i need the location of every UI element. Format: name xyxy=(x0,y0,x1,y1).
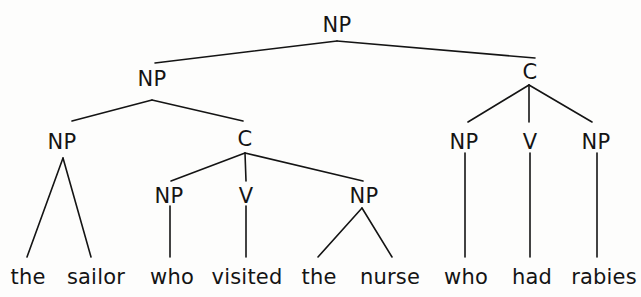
edge-group xyxy=(27,41,597,257)
tree-leaf-w4: visited xyxy=(212,267,283,288)
tree-node-n8-np: NP xyxy=(155,186,184,207)
tree-edge-n3-w2 xyxy=(63,158,91,257)
tree-leaf-w5: the xyxy=(301,267,336,288)
tree-leaf-w8: had xyxy=(512,267,552,288)
tree-edge-n10-w6 xyxy=(362,208,392,257)
tree-leaf-w7: who xyxy=(444,267,488,288)
tree-edge-n2-n7 xyxy=(529,85,592,122)
tree-edge-n0-n1 xyxy=(155,41,337,63)
tree-leaf-w3: who xyxy=(150,267,194,288)
tree-edge-n3-w1 xyxy=(27,158,63,257)
tree-node-n6-v: V xyxy=(523,132,538,153)
tree-node-n0-np: NP xyxy=(323,15,352,36)
tree-edge-n0-n2 xyxy=(337,41,535,58)
tree-edge-n1-n4 xyxy=(152,100,243,121)
tree-leaf-w2: sailor xyxy=(67,267,125,288)
tree-node-n3-np: NP xyxy=(48,132,77,153)
tree-leaf-w1: the xyxy=(10,267,45,288)
tree-node-n10-np: NP xyxy=(350,186,379,207)
tree-node-n5-np: NP xyxy=(450,132,479,153)
tree-leaf-w6: nurse xyxy=(360,267,420,288)
tree-node-n4-c: C xyxy=(238,129,253,150)
tree-edges-layer xyxy=(0,0,641,297)
tree-node-n1-np: NP xyxy=(138,69,167,90)
tree-node-n9-v: V xyxy=(239,186,254,207)
syntax-tree-diagram: NPNPCNPCNPVNPNPVNP thesailorwhovisitedth… xyxy=(0,0,641,297)
tree-edge-n1-n3 xyxy=(72,100,152,121)
tree-leaf-w9: rabies xyxy=(571,267,637,288)
tree-edge-n10-w5 xyxy=(318,208,362,257)
tree-edge-n4-n9 xyxy=(245,153,246,181)
tree-edge-n4-n10 xyxy=(245,153,363,181)
tree-node-n7-np: NP xyxy=(582,132,611,153)
tree-edge-n4-n8 xyxy=(171,153,245,181)
tree-edge-n2-n5 xyxy=(468,85,529,122)
tree-node-n2-c: C xyxy=(523,62,538,83)
